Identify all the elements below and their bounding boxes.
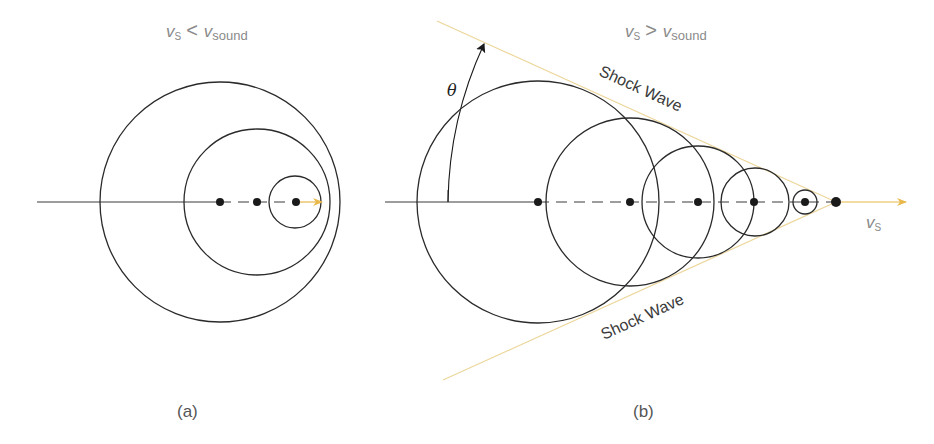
- source-dot: [216, 198, 224, 206]
- source-dot: [750, 198, 758, 206]
- source-current-dot: [831, 197, 841, 207]
- source-dot: [626, 198, 634, 206]
- angle-arc-arrow-icon: [448, 44, 484, 202]
- angle-theta-label: θ: [447, 81, 457, 100]
- doppler-shock-diagram: vS<vsound (a) vS>vsound θ: [0, 0, 934, 444]
- shock-wave-upper-label: Shock Wave: [597, 62, 685, 115]
- source-dot: [801, 198, 809, 206]
- source-dot: [694, 198, 702, 206]
- panel-b-caption: (b): [633, 402, 654, 421]
- source-dot: [534, 198, 542, 206]
- panel-a-title: vS<vsound: [166, 19, 248, 43]
- panel-b-title: vS>vsound: [625, 19, 707, 43]
- velocity-label: vS: [866, 213, 882, 233]
- panel-a-caption: (a): [177, 402, 198, 421]
- source-dot: [253, 198, 261, 206]
- panel-b: vS>vsound θ vS Shock Wave Shock Wav: [385, 19, 906, 421]
- panel-a: vS<vsound (a): [37, 19, 340, 421]
- source-dot: [292, 198, 300, 206]
